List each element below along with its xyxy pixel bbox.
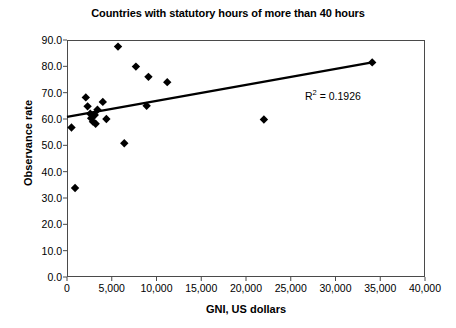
scatter-chart: Countries with statutory hours of more t… — [0, 0, 456, 328]
plot-area — [67, 40, 425, 277]
r-squared-exponent: 2 — [313, 88, 317, 97]
r-squared-value: = 0.1926 — [320, 90, 361, 102]
r-squared-symbol: R — [305, 90, 313, 102]
y-tick-label: 10.0 — [18, 246, 62, 256]
y-tick-label: 90.0 — [18, 35, 62, 45]
x-tick-label: 40,000 — [390, 282, 456, 294]
y-tick-label: 0.0 — [18, 272, 62, 282]
chart-title: Countries with statutory hours of more t… — [0, 7, 456, 19]
y-axis-title: Observance rate — [22, 63, 34, 223]
r-squared-annotation: R2 = 0.1926 — [305, 88, 361, 102]
x-axis-title: GNI, US dollars — [67, 303, 425, 315]
